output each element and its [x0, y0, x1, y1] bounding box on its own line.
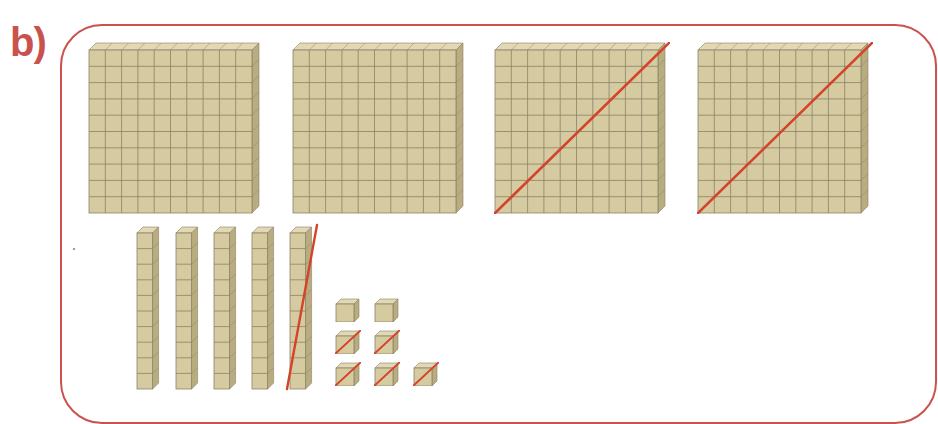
- one-unit-7-crossed: [413, 362, 439, 386]
- rod-icon: [213, 226, 243, 388]
- unit-icon: [374, 330, 400, 354]
- one-unit-5-crossed: [335, 362, 361, 386]
- rod-icon: [251, 226, 281, 388]
- flat-icon: [88, 42, 264, 214]
- hundred-flat-2: [292, 42, 468, 214]
- rod-icon: [289, 226, 319, 388]
- ten-rod-4: [251, 226, 281, 388]
- unit-icon: [335, 298, 361, 322]
- unit-icon: [374, 362, 400, 386]
- ten-rod-3: [213, 226, 243, 388]
- one-unit-1: [335, 298, 361, 322]
- rod-icon: [175, 226, 205, 388]
- hundred-flat-4-crossed: [697, 42, 873, 214]
- exercise-label: b): [10, 22, 46, 62]
- one-unit-2: [374, 298, 400, 322]
- stray-dot: [73, 248, 75, 250]
- one-unit-4-crossed: [374, 330, 400, 354]
- flat-icon: [494, 42, 670, 214]
- ten-rod-5-crossed: [289, 226, 319, 388]
- one-unit-3-crossed: [335, 330, 361, 354]
- unit-icon: [335, 362, 361, 386]
- rod-icon: [136, 226, 166, 388]
- unit-icon: [374, 298, 400, 322]
- hundred-flat-3-crossed: [494, 42, 670, 214]
- hundred-flat-1: [88, 42, 264, 214]
- ten-rod-1: [136, 226, 166, 388]
- ten-rod-2: [175, 226, 205, 388]
- flat-icon: [292, 42, 468, 214]
- one-unit-6-crossed: [374, 362, 400, 386]
- unit-icon: [413, 362, 439, 386]
- unit-icon: [335, 330, 361, 354]
- flat-icon: [697, 42, 873, 214]
